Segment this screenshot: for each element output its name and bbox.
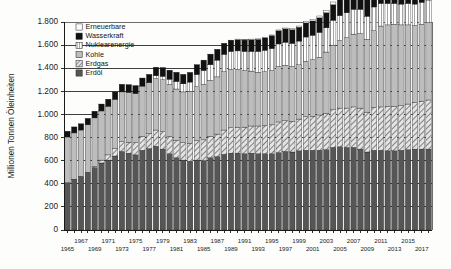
chart-container: 02004006008001.0001.2001.4001.6001.800 1…: [0, 0, 451, 269]
x-tick-label: 1965: [61, 245, 75, 252]
bar-segment: [221, 43, 226, 54]
bar-segment: [317, 18, 322, 33]
bar-segment: [249, 39, 254, 51]
bar-column: [208, 54, 213, 230]
bar-segment: [378, 0, 383, 4]
bar-column: [194, 65, 199, 230]
bar-segment: [221, 130, 226, 154]
bar-segment: [160, 80, 165, 132]
bar-column: [72, 127, 77, 230]
bar-segment: [310, 35, 315, 59]
bar-segment: [344, 108, 349, 147]
bar-segment: [194, 140, 199, 160]
bar-column: [337, 0, 342, 230]
bar-segment: [146, 149, 151, 230]
bar-segment: [276, 153, 281, 230]
bar-segment: [426, 149, 431, 230]
bar-segment: [249, 153, 254, 230]
bar-segment: [235, 39, 240, 40]
bar-segment: [324, 52, 329, 113]
legend-swatch: [76, 61, 82, 67]
bar-segment: [153, 130, 158, 146]
bar-segment: [385, 0, 390, 4]
bar-segment: [365, 16, 370, 39]
x-tick-label: 2001: [306, 245, 320, 252]
bar-segment: [85, 125, 90, 172]
legend-item: Kohle: [76, 50, 104, 59]
bar-segment: [242, 154, 247, 230]
bar-segment: [317, 150, 322, 230]
x-tick-label: 2003: [320, 237, 334, 244]
bar-segment: [201, 84, 206, 139]
bar-column: [221, 43, 226, 230]
bar-segment: [208, 158, 213, 230]
bar-segment: [412, 0, 417, 4]
bar-column: [344, 0, 349, 230]
bar-segment: [324, 113, 329, 149]
bar-segment: [358, 0, 363, 9]
bar-column: [106, 99, 111, 230]
bar-segment: [310, 21, 315, 35]
bar-segment: [317, 16, 322, 18]
bar-segment: [106, 160, 111, 230]
bar-column: [405, 0, 410, 230]
bar-segment: [201, 140, 206, 161]
bar-segment: [276, 122, 281, 153]
bar-segment: [242, 39, 247, 40]
bar-segment: [371, 108, 376, 151]
bar-column: [324, 11, 329, 230]
x-tick-label: 1969: [88, 245, 102, 252]
bar-segment: [419, 2, 424, 24]
bar-column: [174, 72, 179, 230]
bar-segment: [92, 118, 97, 167]
bar-segment: [140, 136, 145, 150]
bar-segment: [412, 149, 417, 230]
bar-segment: [303, 37, 308, 61]
bar-segment: [167, 136, 172, 153]
x-tick-label: 2009: [360, 245, 374, 252]
bar-segment: [385, 106, 390, 150]
bar-segment: [235, 127, 240, 153]
bar-column: [112, 92, 117, 230]
bar-segment: [310, 60, 315, 117]
bar-segment: [106, 106, 111, 155]
bar-segment: [426, 0, 431, 23]
bar-segment: [290, 121, 295, 152]
bar-segment: [365, 39, 370, 112]
bar-segment: [208, 136, 213, 157]
bar-segment: [72, 133, 77, 179]
bar-segment: [330, 110, 335, 148]
bar-segment: [385, 4, 390, 25]
bar-segment: [249, 39, 254, 40]
bar-segment: [112, 92, 117, 99]
bar-column: [126, 85, 131, 230]
bar-segment: [228, 51, 233, 69]
bar-segment: [187, 72, 192, 82]
bar-segment: [65, 137, 70, 183]
bar-segment: [378, 150, 383, 230]
bar-segment: [72, 127, 77, 133]
x-tick-label: 2011: [374, 237, 388, 244]
bar-segment: [399, 25, 404, 106]
bar-segment: [153, 79, 158, 130]
bar-segment: [174, 158, 179, 230]
bar-column: [269, 35, 274, 230]
bar-segment: [344, 13, 349, 38]
bar-column: [262, 37, 267, 230]
bar-segment: [405, 0, 410, 4]
bar-column: [412, 0, 417, 230]
bar-segment: [208, 54, 213, 65]
bar-column: [358, 0, 363, 230]
legend-swatch: [76, 24, 82, 30]
bar-segment: [330, 20, 335, 45]
bar-segment: [378, 26, 383, 107]
bar-segment: [92, 168, 97, 230]
bar-segment: [85, 118, 90, 124]
y-tick-label: 1.200: [38, 87, 59, 96]
y-tick-label: 1.000: [38, 110, 59, 119]
bar-segment: [290, 66, 295, 121]
bar-segment: [337, 108, 342, 147]
x-tick-label: 1967: [74, 237, 88, 244]
bar-column: [160, 68, 165, 230]
bar-column: [310, 19, 315, 230]
